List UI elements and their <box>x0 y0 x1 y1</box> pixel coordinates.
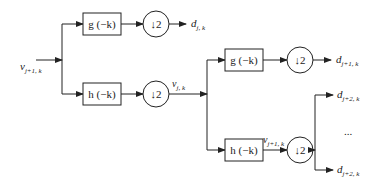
filter-label: h (−k) <box>230 144 258 157</box>
downsample-label: ↓2 <box>151 88 162 100</box>
downsample-block-2-top: ↓2 <box>287 47 313 73</box>
filter-label: g (−k) <box>88 18 116 31</box>
filter-bank-diagram: vj+1, k g (−k) ↓2 dj, k h (−k) ↓2 vj, k … <box>0 0 376 187</box>
filter-label: g (−k) <box>230 54 258 67</box>
detail-output-label-3-top: dj+2, k <box>337 88 360 103</box>
approx-output-label-2: vj+1, k <box>263 134 285 148</box>
detail-output-label-2: dj+1, k <box>336 53 359 68</box>
input-label: vj+1, k <box>20 60 43 75</box>
high-pass-filter-g-2: g (−k) <box>225 49 263 71</box>
low-pass-filter-h-1: h (−k) <box>83 83 121 105</box>
approx-output-label-1: vj, k <box>172 78 186 92</box>
downsample-label: ↓2 <box>295 144 306 156</box>
downsample-label: ↓2 <box>295 54 306 66</box>
detail-output-label-3-bottom: dj+2, k <box>337 163 360 178</box>
downsample-label: ↓2 <box>151 18 162 30</box>
downsample-block-1-bottom: ↓2 <box>143 81 169 107</box>
detail-output-label-1: dj, k <box>191 17 206 32</box>
downsample-block-2-bottom: ↓2 <box>287 137 313 163</box>
filter-label: h (−k) <box>88 88 116 101</box>
ellipsis: ... <box>344 125 353 137</box>
downsample-block-1-top: ↓2 <box>143 11 169 37</box>
high-pass-filter-g-1: g (−k) <box>83 13 121 35</box>
low-pass-filter-h-2: h (−k) <box>225 139 263 161</box>
